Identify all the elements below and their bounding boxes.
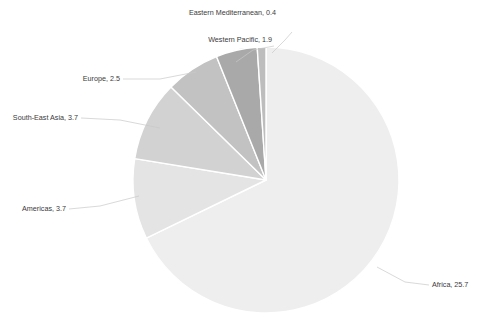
slice-label-eastern-mediterranean: Eastern Mediterranean, 0.4 [189,8,276,17]
pie-chart-container: Eastern Mediterranean, 0.4 Western Pacif… [0,0,502,316]
pie-chart-svg: Eastern Mediterranean, 0.4 Western Pacif… [0,0,502,316]
slice-label-africa: Africa, 25.7 [432,280,468,289]
slice-label-americas: Americas, 3.7 [22,204,66,213]
slice-label-western-pacific: Western Pacific, 1.9 [208,35,272,44]
slice-label-south-east-asia: South-East Asia, 3.7 [13,113,78,122]
pie-slices-group [133,47,399,313]
slice-label-europe: Europe, 2.5 [83,74,120,83]
